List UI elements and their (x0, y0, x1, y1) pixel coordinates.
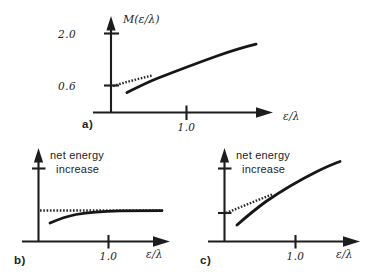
panel-b-x-axis-label: ε/λ (146, 248, 163, 260)
panel-b-x-axis-arrowhead (153, 236, 170, 246)
panel-b-chart: net energy increase 1.0 ε/λ b) (0, 140, 190, 280)
panel-a-x-tick-label: 1.0 (178, 121, 196, 133)
panel-b-curve (50, 211, 162, 223)
panel-a-y-tick-label-top: 2.0 (57, 28, 76, 40)
panel-a-y-tick-label-low: 0.6 (58, 80, 76, 92)
figure-three-panel-plots: 2.0 0.6 1.0 M(ε/λ) ε/λ a) net energy inc… (0, 0, 381, 280)
panel-c-y-axis-label-line2: increase (242, 163, 285, 175)
panel-b-label: b) (14, 254, 26, 266)
panel-c-label: c) (200, 254, 211, 266)
panel-a-x-axis-label: ε/λ (283, 110, 300, 122)
panel-c-chart: net energy increase 1.0 ε/λ c) (190, 140, 381, 280)
panel-c-x-axis-arrowhead (343, 236, 360, 246)
panel-b-y-axis-label-line2: increase (56, 163, 99, 175)
panel-b-x-tick-label: 1.0 (100, 250, 118, 262)
panel-c-x-axis-label: ε/λ (336, 248, 353, 260)
panel-b-y-axis-arrowhead (34, 148, 43, 163)
panel-a-y-axis-label: M(ε/λ) (122, 13, 159, 26)
panel-a-y-axis-arrowhead (106, 16, 115, 31)
panel-c-x-tick-label: 1.0 (287, 250, 305, 262)
panel-a-label: a) (82, 118, 93, 130)
panel-b-y-axis-label-line1: net energy (50, 149, 104, 161)
panel-a-x-axis-arrowhead (256, 107, 273, 117)
panel-a-curve (127, 44, 256, 92)
panel-c-y-axis-arrowhead (220, 148, 229, 163)
panel-c-y-axis-label-line1: net energy (236, 149, 290, 161)
panel-a-chart: 2.0 0.6 1.0 M(ε/λ) ε/λ a) (0, 0, 381, 140)
